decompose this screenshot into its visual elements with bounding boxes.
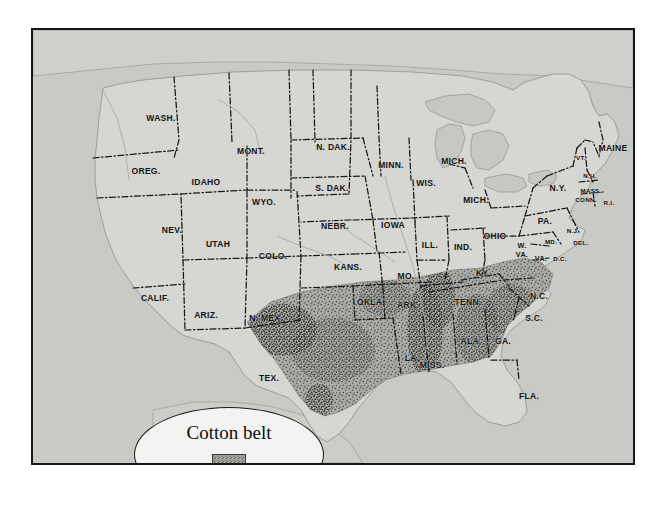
cotton-belt-map-page: WASH.OREG.IDAHOMONT.WYO.NEV.UTAHCOLO.CAL…	[0, 0, 666, 514]
map-frame: WASH.OREG.IDAHOMONT.WYO.NEV.UTAHCOLO.CAL…	[31, 28, 635, 465]
legend-swatch	[212, 454, 246, 465]
legend-title: Cotton belt	[135, 422, 323, 444]
map-graphic	[33, 30, 633, 463]
